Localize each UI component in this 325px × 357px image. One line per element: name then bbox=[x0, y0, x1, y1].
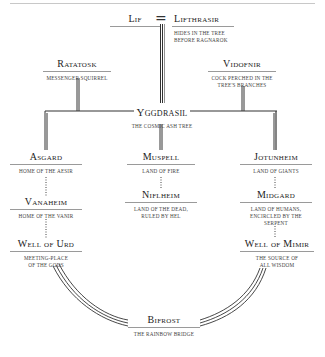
marriage-symbol: = bbox=[155, 12, 167, 24]
node-name: Well of Mimir bbox=[240, 238, 314, 249]
node-name: Asgard bbox=[10, 151, 82, 162]
node-name: Niflheim bbox=[125, 189, 197, 200]
node-desc: The source of all wisdom bbox=[251, 255, 303, 269]
node-well-of-mimir: Well of Mimir The source of all wisdom bbox=[240, 238, 314, 269]
node-desc: Land of fire bbox=[127, 168, 195, 175]
connector-lines bbox=[0, 0, 325, 357]
node-lif: Lif bbox=[110, 13, 160, 30]
node-niflheim: Niflheim Land of the dead, ruled by Hel bbox=[125, 189, 197, 220]
node-yggdrasil: Yggdrasil The cosmic ash tree bbox=[113, 101, 211, 130]
node-midgard: Midgard Land of humans, encircled by the… bbox=[240, 189, 312, 227]
divider bbox=[240, 202, 312, 203]
node-desc: Meeting-place of the gods bbox=[20, 255, 72, 269]
node-asgard: Asgard Home of the Aesir bbox=[10, 151, 82, 175]
node-desc: Cock perched in the tree's branches bbox=[208, 75, 276, 89]
node-name: Midgard bbox=[240, 189, 312, 200]
node-vanaheim: Vanaheim Home of the Vanir bbox=[10, 196, 82, 220]
node-desc: Home of the Aesir bbox=[10, 168, 82, 175]
node-vidofnir: Vidofnir Cock perched in the tree's bran… bbox=[208, 58, 276, 89]
divider bbox=[10, 164, 82, 165]
node-desc: The cosmic ash tree bbox=[113, 123, 211, 130]
node-desc: Home of the Vanir bbox=[10, 213, 82, 220]
node-muspell: Muspell Land of fire bbox=[127, 151, 195, 175]
divider bbox=[172, 26, 234, 27]
node-bifrost: Bifrost The rainbow bridge bbox=[128, 314, 200, 338]
node-name: Vanaheim bbox=[10, 196, 82, 207]
node-jotunheim: Jotunheim Land of giants bbox=[240, 151, 312, 175]
divider bbox=[240, 164, 312, 165]
node-desc: Land of giants bbox=[240, 168, 312, 175]
divider bbox=[127, 164, 195, 165]
node-lifthrasir: Lifthrasir Hides in the tree before Ragn… bbox=[172, 13, 234, 44]
node-desc: Land of the dead, ruled by Hel bbox=[131, 206, 191, 220]
divider bbox=[43, 71, 111, 72]
node-name: Lif bbox=[110, 13, 160, 24]
divider bbox=[10, 209, 82, 210]
node-name: Lifthrasir bbox=[172, 13, 234, 24]
divider bbox=[128, 327, 200, 328]
node-name: Ratatosk bbox=[43, 58, 111, 69]
divider bbox=[240, 251, 314, 252]
node-name: Muspell bbox=[127, 151, 195, 162]
node-desc: The rainbow bridge bbox=[128, 331, 200, 338]
node-well-of-urd: Well of Urd Meeting-place of the gods bbox=[10, 238, 82, 269]
node-name: Vidofnir bbox=[208, 58, 276, 69]
divider bbox=[208, 71, 276, 72]
node-name: Bifrost bbox=[128, 314, 200, 325]
node-name: Well of Urd bbox=[10, 238, 82, 249]
node-name: Jotunheim bbox=[240, 151, 312, 162]
node-name: Yggdrasil bbox=[134, 107, 189, 118]
node-desc: Messenger squirrel bbox=[43, 75, 111, 82]
node-desc: Land of humans, encircled by the serpent bbox=[245, 206, 307, 227]
divider bbox=[125, 202, 197, 203]
divider bbox=[10, 251, 82, 252]
node-ratatosk: Ratatosk Messenger squirrel bbox=[43, 58, 111, 82]
divider bbox=[110, 26, 160, 27]
node-desc: Hides in the tree before Ragnarok bbox=[172, 30, 228, 44]
